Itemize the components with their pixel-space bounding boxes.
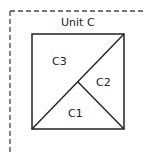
piece-label-c2: C2 [96,76,111,89]
unit-c-diagram: Unit C C3 C2 C1 [0,0,144,152]
piece-label-c3: C3 [52,55,67,68]
unit-title: Unit C [61,16,95,29]
split-line [78,82,124,129]
piece-label-c1: C1 [68,107,83,120]
